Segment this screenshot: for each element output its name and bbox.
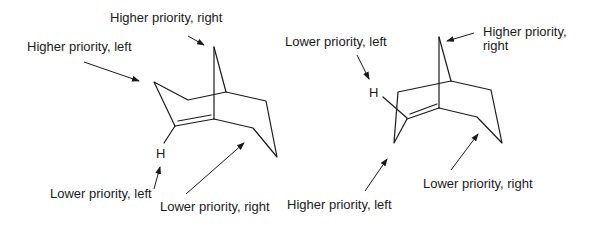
bond xyxy=(439,81,502,143)
label-lower-priority-right: Lower priority, right xyxy=(160,199,270,214)
double-bond-inner xyxy=(410,104,437,114)
c-h-bond xyxy=(164,126,175,143)
bond xyxy=(439,37,451,81)
bond xyxy=(214,47,226,92)
arrow-higher-right xyxy=(188,36,204,45)
bicyclic-alkene-priority-diagram: H Higher priority, right Higher priority… xyxy=(0,0,594,227)
left-molecule: H Higher priority, right Higher priority… xyxy=(27,10,277,214)
arrow-higher-right xyxy=(447,33,474,41)
right-molecule: H Lower priority, left Higher priority, … xyxy=(285,24,567,212)
arrow-higher-left xyxy=(84,62,139,81)
label-lower-priority-left: Lower priority, left xyxy=(50,186,152,201)
bond xyxy=(214,92,277,157)
hydrogen-atom: H xyxy=(369,85,378,100)
label-higher-priority-left: Higher priority, left xyxy=(287,197,392,212)
arrow-lower-left xyxy=(154,167,160,189)
label-lower-priority-right: Lower priority, right xyxy=(423,176,533,191)
label-higher-priority-right-line1: Higher priority, xyxy=(483,24,567,39)
hydrogen-atom: H xyxy=(156,146,165,161)
c-h-bond xyxy=(383,97,407,118)
arrow-lower-right xyxy=(186,143,244,194)
arrow-lower-left xyxy=(357,55,369,79)
label-lower-priority-left: Lower priority, left xyxy=(285,34,387,49)
diagram-canvas: H Higher priority, right Higher priority… xyxy=(0,0,594,227)
bond xyxy=(394,81,451,143)
label-higher-priority-right: Higher priority, right xyxy=(110,10,223,25)
arrow-higher-left xyxy=(365,159,387,191)
label-higher-priority-left: Higher priority, left xyxy=(27,39,132,54)
label-higher-priority-right-line2: right xyxy=(483,38,509,53)
arrow-lower-right xyxy=(451,134,478,170)
